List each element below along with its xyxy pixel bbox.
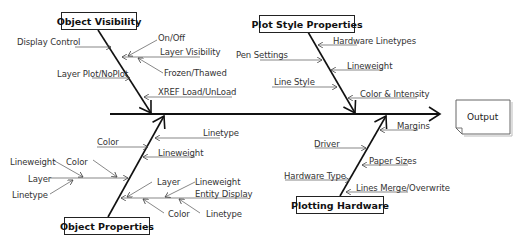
cause-layer-visibility: Layer Visibility [160,48,220,57]
category-object-properties: Object Properties [64,217,150,235]
effect-output: Output [467,112,498,122]
sub-cause-ed-lineweight: Lineweight [195,178,240,187]
sub-cause-ed-linetype: Linetype [206,210,242,219]
cause-color-intensity: Color & Intensity [360,90,430,99]
cause-paper-sizes: Paper Sizes [369,157,417,166]
cause-lineweight: Lineweight [158,149,203,158]
category-plot-style-properties: Plot Style Properties [259,15,355,33]
cause-pen-settings: Pen Settings [236,51,288,60]
cause-entity-display: Entity Display [195,190,252,199]
cause-margins: Margins [397,122,430,131]
category-plotting-hardware: Plotting Hardware [296,196,384,214]
cause-lines-merge-overwrite: Lines Merge/Overwrite [356,184,450,193]
category-object-visibility: Object Visibility [61,12,137,30]
sub-cause-frozen-thawed: Frozen/Thawed [164,69,227,78]
cause-hardware-type: Hardware Type [284,172,346,181]
cause-linetype: Linetype [203,129,239,138]
sub-cause-layer-color: Color [66,158,88,167]
cause-hardware-linetypes: Hardware Linetypes [333,37,416,46]
cause-display-control: Display Control [17,38,80,47]
cause-layer: Layer [28,175,51,184]
cause-lineweight: Lineweight [347,62,392,71]
cause-xref-load-unload: XREF Load/UnLoad [158,88,236,97]
cause-line-style: Line Style [274,78,315,87]
sub-cause-on-off: On/Off [158,34,185,43]
sub-cause-layer-lineweight: Lineweight [10,158,55,167]
sub-cause-ed-color: Color [168,210,190,219]
cause-driver: Driver [314,140,340,149]
cause-color: Color [97,138,119,147]
cause-layer-plot-noplot: Layer Plot/NoPlot [57,70,128,79]
sub-cause-ed-layer: Layer [157,178,180,187]
sub-cause-layer-linetype: Linetype [12,191,48,200]
